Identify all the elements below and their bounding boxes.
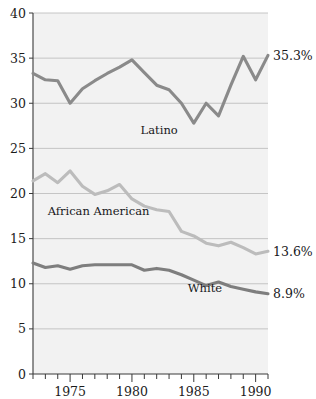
end-label-latino: 35.3% (273, 48, 313, 63)
end-label-african-american: 13.6% (273, 244, 313, 259)
series-label-latino: Latino (141, 123, 178, 137)
y-tick-label-25: 25 (10, 141, 26, 156)
x-axis-tickmarks (33, 374, 268, 382)
y-tick-label-10: 10 (10, 276, 26, 291)
y-tick-label-40: 40 (10, 6, 26, 21)
chart-container: 0510152025303540 1975198019851990 Latino… (0, 0, 316, 399)
y-tick-label-15: 15 (10, 231, 26, 246)
x-tick-label-1985: 1985 (178, 384, 210, 399)
y-tick-label-0: 0 (18, 367, 26, 382)
y-tick-label-20: 20 (10, 186, 26, 201)
end-label-white: 8.9% (273, 286, 305, 301)
y-axis-tick-labels: 0510152025303540 (10, 6, 33, 382)
y-tick-label-30: 30 (10, 96, 26, 111)
x-tick-label-1980: 1980 (116, 384, 148, 399)
x-axis-tick-labels: 1975198019851990 (54, 384, 271, 399)
series-label-white: White (188, 281, 223, 295)
x-tick-label-1975: 1975 (54, 384, 86, 399)
series-label-african-american: African American (47, 204, 150, 218)
y-tick-label-5: 5 (18, 321, 26, 336)
y-tick-label-35: 35 (10, 51, 26, 66)
line-chart: 0510152025303540 1975198019851990 Latino… (0, 0, 316, 399)
end-value-labels-group: 35.3%13.6%8.9% (273, 48, 313, 301)
x-tick-label-1990: 1990 (240, 384, 272, 399)
